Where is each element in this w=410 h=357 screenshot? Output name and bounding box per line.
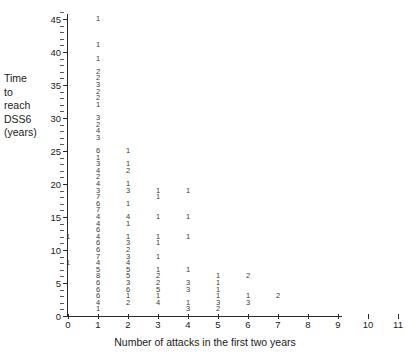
y-tick-minor (60, 257, 64, 258)
y-tick-minor (60, 197, 64, 198)
data-point-count: 1 (181, 266, 195, 274)
data-point-count: 1 (91, 41, 105, 49)
x-tick-label: 5 (203, 320, 233, 330)
y-tick-label: 25 (21, 147, 61, 157)
y-tick-minor (60, 111, 64, 112)
data-point-count: 3 (121, 187, 135, 195)
y-tick-major (63, 151, 68, 152)
y-tick-major (63, 250, 68, 251)
data-point-count: 1 (151, 193, 165, 201)
y-tick-label: 15 (21, 213, 61, 223)
data-point-count: 1 (61, 233, 75, 241)
y-tick-minor (60, 125, 64, 126)
y-tick-label: 40 (21, 48, 61, 58)
y-tick-minor (60, 59, 64, 60)
x-tick-label: 3 (143, 320, 173, 330)
y-tick-minor (60, 303, 64, 304)
y-tick-label: 20 (21, 180, 61, 190)
y-tick-minor (60, 309, 64, 310)
y-tick-major (63, 283, 68, 284)
y-tick-minor (60, 32, 64, 33)
data-point-count: 1 (151, 213, 165, 221)
scatter-plot: Time to reach DSS6 (years) 0510152025303… (0, 0, 410, 357)
x-axis-label: Number of attacks in the first two years (0, 336, 410, 348)
data-point-count: 1 (91, 15, 105, 23)
data-point-count: 1 (151, 239, 165, 247)
x-tick-label: 7 (263, 320, 293, 330)
y-tick-major (63, 217, 68, 218)
y-axis-label-line-3: reach (4, 99, 60, 113)
data-point-count: 2 (211, 305, 225, 313)
y-tick-major (63, 19, 68, 20)
y-tick-minor (60, 171, 64, 172)
y-tick-minor (60, 243, 64, 244)
y-tick-minor (60, 138, 64, 139)
data-point-count: 1 (91, 55, 105, 63)
data-point-count: 2 (121, 299, 135, 307)
y-tick-major (63, 85, 68, 86)
x-tick-label: 9 (323, 320, 353, 330)
y-tick-minor (60, 230, 64, 231)
x-tick-label: 6 (233, 320, 263, 330)
y-tick-major (63, 184, 68, 185)
y-tick-minor (60, 276, 64, 277)
y-axis-label-line-5: (years) (4, 126, 60, 140)
y-tick-minor (60, 39, 64, 40)
x-tick-label: 0 (53, 320, 83, 330)
data-point-count: 1 (181, 213, 195, 221)
data-point-count: 1 (121, 200, 135, 208)
x-tick-label: 10 (353, 320, 383, 330)
y-tick-minor (60, 78, 64, 79)
y-tick-minor (60, 210, 64, 211)
y-tick-minor (60, 45, 64, 46)
y-tick-minor (60, 270, 64, 271)
data-point-count: 2 (271, 292, 285, 300)
y-tick-minor (60, 290, 64, 291)
y-tick-label: 45 (21, 15, 61, 25)
y-tick-major (63, 52, 68, 53)
y-tick-minor (60, 72, 64, 73)
y-tick-minor (60, 158, 64, 159)
data-point-count: 1 (151, 253, 165, 261)
y-tick-minor (60, 296, 64, 297)
y-tick-major (63, 118, 68, 119)
x-tick-label: 8 (293, 320, 323, 330)
data-point-count: 2 (121, 167, 135, 175)
data-point-count: 1 (61, 259, 75, 267)
x-tick-label: 11 (383, 320, 410, 330)
data-point-count: 3 (241, 299, 255, 307)
y-tick-minor (60, 204, 64, 205)
data-point-count: 1 (181, 233, 195, 241)
y-tick-minor (60, 105, 64, 106)
data-point-count: 1 (121, 147, 135, 155)
y-tick-label: 5 (21, 279, 61, 289)
data-point-count: 3 (181, 286, 195, 294)
y-tick-minor (60, 26, 64, 27)
data-point-count: 1 (91, 101, 105, 109)
y-tick-minor (60, 191, 64, 192)
y-tick-minor (60, 144, 64, 145)
data-point-count: 3 (91, 134, 105, 142)
x-tick-label: 4 (173, 320, 203, 330)
y-tick-label: 35 (21, 81, 61, 91)
x-axis-line (67, 316, 342, 317)
y-tick-minor (60, 92, 64, 93)
y-tick-minor (60, 98, 64, 99)
y-tick-minor (60, 224, 64, 225)
data-point-count: 2 (241, 272, 255, 280)
data-point-count: 3 (181, 305, 195, 313)
y-tick-minor (60, 65, 64, 66)
x-tick-label: 2 (113, 320, 143, 330)
y-tick-label: 30 (21, 114, 61, 124)
y-tick-minor (60, 12, 64, 13)
data-point-count: 1 (121, 220, 135, 228)
y-tick-minor (60, 177, 64, 178)
data-point-count: 1 (91, 305, 105, 313)
y-axis-line (67, 14, 68, 316)
x-tick-label: 1 (83, 320, 113, 330)
y-tick-minor (60, 131, 64, 132)
data-point-count: 1 (181, 187, 195, 195)
y-tick-label: 10 (21, 246, 61, 256)
data-point-count: 4 (151, 299, 165, 307)
y-tick-minor (60, 164, 64, 165)
